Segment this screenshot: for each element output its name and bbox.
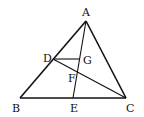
label-b: B xyxy=(12,102,20,115)
label-c: C xyxy=(126,102,134,115)
label-a: A xyxy=(81,6,91,19)
label-d: D xyxy=(43,52,52,65)
segment-ca xyxy=(86,21,126,98)
label-f: F xyxy=(68,72,76,85)
geometry-diagram: A B C D E F G xyxy=(0,0,144,117)
label-e: E xyxy=(70,102,78,115)
label-g: G xyxy=(83,54,92,67)
